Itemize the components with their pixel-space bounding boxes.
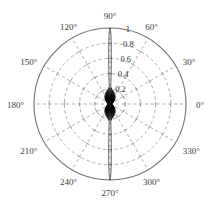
angle-label-120: 120° xyxy=(60,22,78,32)
angle-label-240: 240° xyxy=(60,177,78,187)
radial-label-1: 1 xyxy=(126,24,130,34)
angle-label-270: 270° xyxy=(101,188,119,198)
angle-label-90: 90° xyxy=(104,11,117,21)
angle-label-180: 180° xyxy=(7,100,25,110)
radial-label-0-6: 0.6 xyxy=(120,54,131,64)
angle-label-60: 60° xyxy=(145,22,158,32)
polar-plot-canvas: 0° 30° 60° 90° 120° 150° 180° 210° 240° … xyxy=(0,0,214,209)
angle-label-300: 300° xyxy=(143,177,161,187)
radial-label-0-2: 0.2 xyxy=(115,84,126,94)
grid-spokes xyxy=(34,28,186,180)
angle-label-210: 210° xyxy=(20,146,38,156)
angle-label-330: 330° xyxy=(183,146,201,156)
angle-label-150: 150° xyxy=(20,57,38,67)
angle-label-30: 30° xyxy=(183,57,196,67)
radial-label-0-4: 0.4 xyxy=(118,69,129,79)
radial-label-0-8: 0.8 xyxy=(123,39,134,49)
polar-plot-figure: 0° 30° 60° 90° 120° 150° 180° 210° 240° … xyxy=(0,0,214,209)
angle-label-0: 0° xyxy=(196,100,205,110)
